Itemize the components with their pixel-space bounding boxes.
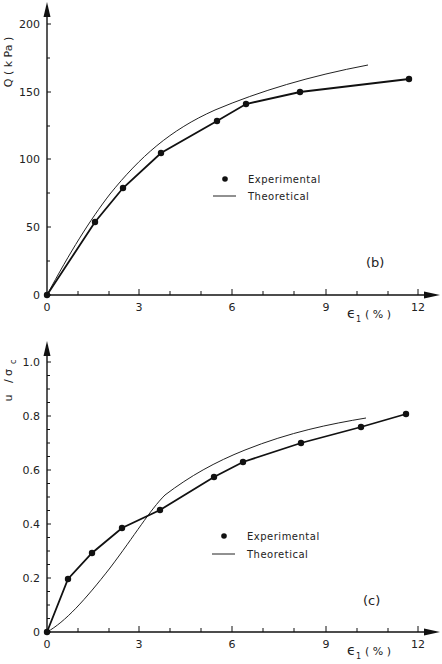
- legend-marker-icon: [221, 533, 227, 539]
- y-axis-arrow-icon: [44, 341, 51, 356]
- x-tick-label: 9: [323, 301, 330, 314]
- x-axis-label-c: ϵ 1 ( % ): [347, 642, 391, 661]
- y-ticks-c: [47, 362, 51, 632]
- svg-text:u: u: [2, 395, 15, 402]
- chart-b: 0 50 100 150 200 0 3 6 9 12 Q ( k Pa ) ϵ: [2, 2, 440, 324]
- legend-theoretical-label: Theoretical: [246, 549, 308, 560]
- x-tick-label: 9: [323, 638, 330, 651]
- x-tick-label: 3: [136, 638, 143, 651]
- y-axis-arrow-icon: [44, 2, 51, 17]
- experimental-line-b: [47, 79, 409, 295]
- experimental-line-c: [47, 414, 406, 632]
- svg-text:( % ): ( % ): [365, 308, 391, 321]
- y-tick-label: 1.0: [23, 356, 41, 369]
- svg-text:1: 1: [356, 315, 361, 324]
- y-axis-label-b: Q ( k Pa ): [2, 37, 15, 87]
- x-tick-label: 12: [411, 301, 425, 314]
- legend-experimental-label: Experimental: [247, 531, 320, 542]
- y-tick-label: 150: [19, 86, 40, 99]
- y-tick-label: 0.4: [23, 518, 41, 531]
- legend-experimental-label: Experimental: [248, 174, 321, 185]
- y-tick-label: 0.2: [23, 572, 41, 585]
- chart-c: 0 0.2 0.4 0.6 0.8 1.0 0 3 6 9 12 u /: [2, 341, 440, 661]
- x-ticks-c: [78, 626, 418, 632]
- x-axis-label-b: ϵ 1 ( % ): [347, 305, 391, 324]
- panel-tag-b: (b): [366, 255, 384, 270]
- x-axis-arrow-icon: [424, 292, 440, 299]
- y-tick-label: 0: [33, 289, 40, 302]
- x-axis-arrow-icon: [424, 629, 440, 636]
- y-tick-label: 0.8: [23, 410, 41, 423]
- svg-text:( % ): ( % ): [365, 645, 391, 658]
- svg-text:ϵ: ϵ: [347, 642, 356, 658]
- experimental-markers-c: [44, 411, 409, 635]
- x-tick-label: 6: [229, 638, 236, 651]
- panel-tag-c: (c): [363, 593, 380, 608]
- experimental-markers-b: [44, 76, 412, 298]
- svg-text:/ σ: / σ: [2, 369, 15, 383]
- legend-c: Experimental Theoretical: [212, 531, 320, 560]
- figure-canvas: 0 50 100 150 200 0 3 6 9 12 Q ( k Pa ) ϵ: [0, 0, 442, 664]
- y-axis-label-c: u / σ c: [2, 360, 18, 402]
- svg-text:ϵ: ϵ: [347, 305, 356, 321]
- legend-marker-icon: [222, 176, 228, 182]
- y-tick-label: 100: [19, 153, 40, 166]
- x-tick-label: 6: [229, 301, 236, 314]
- y-tick-label: 50: [26, 221, 40, 234]
- legend-theoretical-label: Theoretical: [247, 191, 309, 202]
- x-tick-label: 3: [136, 301, 143, 314]
- legend-b: Experimental Theoretical: [213, 174, 321, 202]
- y-tick-label: 200: [19, 18, 40, 31]
- x-tick-label: 0: [44, 301, 51, 314]
- y-tick-label: 0: [33, 626, 40, 639]
- x-tick-label: 12: [411, 638, 425, 651]
- x-ticks-b: [78, 289, 418, 295]
- theoretical-curve-c: [47, 418, 366, 632]
- x-tick-label: 0: [44, 638, 51, 651]
- svg-text:c: c: [9, 360, 18, 364]
- svg-text:1: 1: [356, 652, 361, 661]
- y-tick-label: 0.6: [23, 464, 41, 477]
